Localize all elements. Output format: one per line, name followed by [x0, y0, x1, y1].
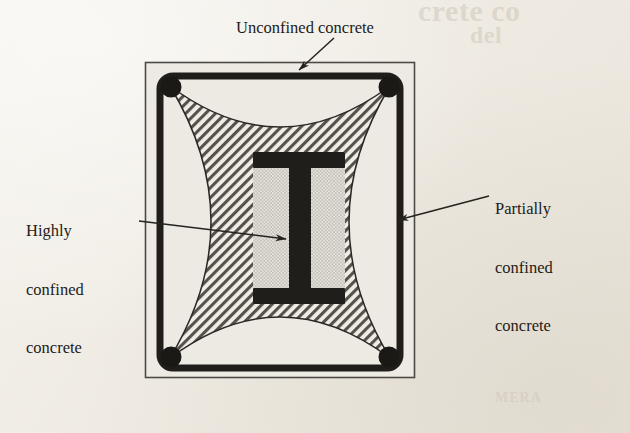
rebar-bottom-left: [161, 347, 182, 368]
label-partially-line-1: Partially: [495, 199, 553, 219]
label-highly-line-2: confined: [26, 280, 84, 300]
ibeam-bottom-flange: [253, 288, 345, 304]
ibeam-top-flange: [253, 152, 345, 168]
label-highly-line-3: concrete: [26, 338, 84, 358]
label-unconfined-concrete: Unconfined concrete: [236, 18, 374, 38]
label-highly-line-1: Highly: [26, 221, 84, 241]
label-partially-confined-concrete: Partially confined concrete: [495, 160, 553, 375]
rebar-bottom-right: [379, 347, 400, 368]
figure-canvas: crete co del MERA: [0, 0, 630, 433]
label-partially-line-3: concrete: [495, 316, 553, 336]
ibeam-web: [289, 166, 311, 304]
label-partially-line-2: confined: [495, 258, 553, 278]
label-highly-confined-concrete: Highly confined concrete: [26, 182, 84, 397]
rebar-top-right: [379, 77, 400, 98]
rebar-top-left: [161, 77, 182, 98]
